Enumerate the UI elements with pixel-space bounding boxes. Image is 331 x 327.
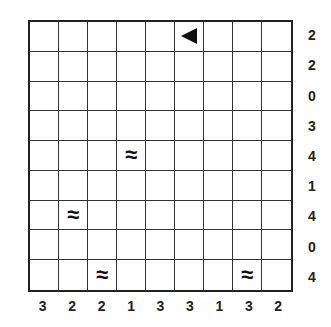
grid-cell-r3-c4[interactable] [146, 111, 175, 141]
grid-cell-r4-c4[interactable] [146, 141, 175, 171]
grid-cell-r3-c3[interactable] [117, 111, 146, 141]
grid-cell-r5-c2[interactable] [88, 171, 117, 201]
grid-cell-r3-c5[interactable] [175, 111, 204, 141]
grid-cell-r7-c3[interactable] [117, 230, 146, 260]
grid-cell-r3-c0[interactable] [30, 111, 59, 141]
grid-cell-r2-c4[interactable] [146, 82, 175, 112]
col-clue-2: 2 [92, 298, 112, 314]
grid-cell-r7-c1[interactable] [59, 230, 88, 260]
grid-cell-r2-c3[interactable] [117, 82, 146, 112]
grid-cell-r0-c3[interactable] [117, 22, 146, 52]
grid-cell-r1-c0[interactable] [30, 52, 59, 82]
grid-cell-r0-c0[interactable] [30, 22, 59, 52]
grid-cell-r5-c8[interactable] [262, 171, 291, 201]
row-clue-1: 2 [305, 57, 319, 73]
ship-end-left-icon [181, 28, 197, 44]
col-clue-8: 2 [268, 298, 288, 314]
grid-cell-r6-c0[interactable] [30, 201, 59, 231]
col-clue-1: 2 [62, 298, 82, 314]
grid-cell-r6-c8[interactable] [262, 201, 291, 231]
grid-cell-r7-c6[interactable] [204, 230, 233, 260]
grid-cell-r4-c0[interactable] [30, 141, 59, 171]
grid-cell-r5-c4[interactable] [146, 171, 175, 201]
grid-cell-r5-c5[interactable] [175, 171, 204, 201]
grid-cell-r2-c8[interactable] [262, 82, 291, 112]
grid-cell-r0-c4[interactable] [146, 22, 175, 52]
grid-cell-r8-c7[interactable]: ≈ [233, 260, 262, 290]
grid-cell-r2-c2[interactable] [88, 82, 117, 112]
grid-cell-r8-c4[interactable] [146, 260, 175, 290]
grid-cell-r0-c8[interactable] [262, 22, 291, 52]
grid-cell-r4-c2[interactable] [88, 141, 117, 171]
grid-cell-r3-c1[interactable] [59, 111, 88, 141]
grid-cell-r5-c0[interactable] [30, 171, 59, 201]
grid-cell-r4-c3[interactable]: ≈ [117, 141, 146, 171]
grid-cell-r0-c5[interactable] [175, 22, 204, 52]
grid-cell-r6-c1[interactable]: ≈ [59, 201, 88, 231]
grid-cell-r2-c0[interactable] [30, 82, 59, 112]
grid-cell-r0-c1[interactable] [59, 22, 88, 52]
grid-cell-r1-c4[interactable] [146, 52, 175, 82]
grid-cell-r6-c4[interactable] [146, 201, 175, 231]
grid-cell-r6-c5[interactable] [175, 201, 204, 231]
col-clue-4: 3 [151, 298, 171, 314]
grid-cell-r4-c5[interactable] [175, 141, 204, 171]
grid-cell-r3-c8[interactable] [262, 111, 291, 141]
grid-cell-r1-c7[interactable] [233, 52, 262, 82]
row-clue-6: 4 [305, 208, 319, 224]
water-icon: ≈ [96, 264, 108, 286]
grid-cell-r7-c0[interactable] [30, 230, 59, 260]
grid-cell-r1-c1[interactable] [59, 52, 88, 82]
col-clue-5: 3 [180, 298, 200, 314]
grid-cell-r3-c7[interactable] [233, 111, 262, 141]
grid-cell-r1-c6[interactable] [204, 52, 233, 82]
grid-cell-r8-c8[interactable] [262, 260, 291, 290]
col-clue-7: 3 [239, 298, 259, 314]
grid-cell-r5-c1[interactable] [59, 171, 88, 201]
grid-cell-r1-c2[interactable] [88, 52, 117, 82]
grid-cell-r3-c6[interactable] [204, 111, 233, 141]
grid-cell-r7-c7[interactable] [233, 230, 262, 260]
grid-cell-r7-c5[interactable] [175, 230, 204, 260]
water-icon: ≈ [67, 204, 79, 226]
grid-cell-r0-c7[interactable] [233, 22, 262, 52]
grid-cell-r4-c1[interactable] [59, 141, 88, 171]
grid-cell-r8-c5[interactable] [175, 260, 204, 290]
grid-cell-r5-c3[interactable] [117, 171, 146, 201]
grid-cell-r6-c2[interactable] [88, 201, 117, 231]
grid-cell-r8-c6[interactable] [204, 260, 233, 290]
water-icon: ≈ [241, 264, 253, 286]
grid-cell-r4-c6[interactable] [204, 141, 233, 171]
grid-cell-r2-c5[interactable] [175, 82, 204, 112]
grid-cell-r6-c6[interactable] [204, 201, 233, 231]
grid-cell-r2-c6[interactable] [204, 82, 233, 112]
grid-cell-r7-c2[interactable] [88, 230, 117, 260]
grid-cell-r7-c8[interactable] [262, 230, 291, 260]
grid-cell-r1-c8[interactable] [262, 52, 291, 82]
grid-cell-r6-c7[interactable] [233, 201, 262, 231]
grid-cell-r8-c0[interactable] [30, 260, 59, 290]
puzzle-grid: ≈≈≈≈ [28, 20, 293, 292]
grid-cell-r0-c6[interactable] [204, 22, 233, 52]
grid-cell-r5-c6[interactable] [204, 171, 233, 201]
grid-cell-r1-c3[interactable] [117, 52, 146, 82]
grid-cell-r6-c3[interactable] [117, 201, 146, 231]
grid-cell-r0-c2[interactable] [88, 22, 117, 52]
grid-cell-r3-c2[interactable] [88, 111, 117, 141]
col-clue-0: 3 [33, 298, 53, 314]
row-clue-7: 0 [305, 239, 319, 255]
grid-cell-r2-c1[interactable] [59, 82, 88, 112]
grid-cell-r5-c7[interactable] [233, 171, 262, 201]
row-clue-2: 0 [305, 88, 319, 104]
row-clue-3: 3 [305, 118, 319, 134]
grid-cell-r8-c3[interactable] [117, 260, 146, 290]
grid-cell-r8-c2[interactable]: ≈ [88, 260, 117, 290]
grid-cell-r7-c4[interactable] [146, 230, 175, 260]
row-clue-8: 4 [305, 269, 319, 285]
grid-cell-r8-c1[interactable] [59, 260, 88, 290]
col-clue-6: 1 [209, 298, 229, 314]
grid-cell-r4-c7[interactable] [233, 141, 262, 171]
grid-cell-r1-c5[interactable] [175, 52, 204, 82]
grid-cell-r4-c8[interactable] [262, 141, 291, 171]
grid-cell-r2-c7[interactable] [233, 82, 262, 112]
